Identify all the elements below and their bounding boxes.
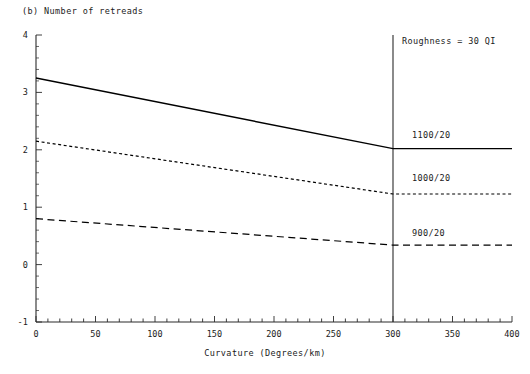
series-label-1100-20: 1100/20 xyxy=(412,130,451,140)
y-tick-label: 3 xyxy=(23,87,28,97)
roughness-annotation: Roughness = 30 QI xyxy=(402,36,496,46)
x-tick-label: 400 xyxy=(504,329,519,339)
retreads-curvature-chart: (b) Number of retreads -101234 050100150… xyxy=(0,0,530,374)
series-label-900-20: 900/20 xyxy=(412,228,445,238)
x-tick-label: 200 xyxy=(266,329,281,339)
plot-area xyxy=(0,0,530,374)
y-tick-label: 1 xyxy=(23,202,28,212)
y-tick-label: 2 xyxy=(23,145,28,155)
x-tick-label: 150 xyxy=(207,329,222,339)
x-tick-label: 350 xyxy=(445,329,460,339)
x-axis-label: Curvature (Degrees/km) xyxy=(0,348,530,358)
x-tick-label: 0 xyxy=(33,329,38,339)
x-tick-label: 100 xyxy=(147,329,162,339)
y-tick-label: 4 xyxy=(23,30,28,40)
x-tick-label: 300 xyxy=(385,329,400,339)
x-tick-label: 50 xyxy=(90,329,100,339)
x-tick-label: 250 xyxy=(326,329,341,339)
y-tick-label: -1 xyxy=(18,317,28,327)
data-series xyxy=(36,78,512,245)
y-tick-label: 0 xyxy=(23,260,28,270)
series-label-1000-20: 1000/20 xyxy=(412,173,451,183)
